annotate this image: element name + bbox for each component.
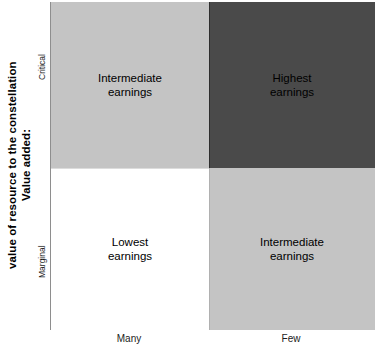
two-by-two-matrix-figure: Value added: value of resource to the co… — [0, 0, 379, 354]
y-axis-tick-marginal: Marginal — [36, 228, 49, 296]
matrix-cell-label: Lowest earnings — [104, 235, 156, 264]
matrix-cell-label: Highest earnings — [266, 71, 318, 100]
x-axis-tick-few: Few — [208, 334, 374, 344]
y-axis-title: Value added: value of resource to the co… — [0, 0, 34, 330]
x-axis-tick-many: Many — [50, 334, 208, 344]
matrix-cell-critical-few: Highest earnings — [209, 2, 375, 168]
matrix-cell-marginal-many: Lowest earnings — [51, 168, 209, 330]
matrix-cell-label: Intermediate earnings — [94, 71, 166, 100]
matrix-cell-label: Intermediate earnings — [256, 235, 328, 264]
matrix-plot-area: Intermediate earnings Highest earnings L… — [50, 2, 374, 330]
y-axis-tick-critical: Critical — [36, 36, 49, 98]
matrix-cell-marginal-few: Intermediate earnings — [209, 168, 375, 330]
y-axis-title-line-2: value of resource to the constellation — [4, 0, 21, 330]
matrix-cell-critical-many: Intermediate earnings — [51, 2, 209, 168]
